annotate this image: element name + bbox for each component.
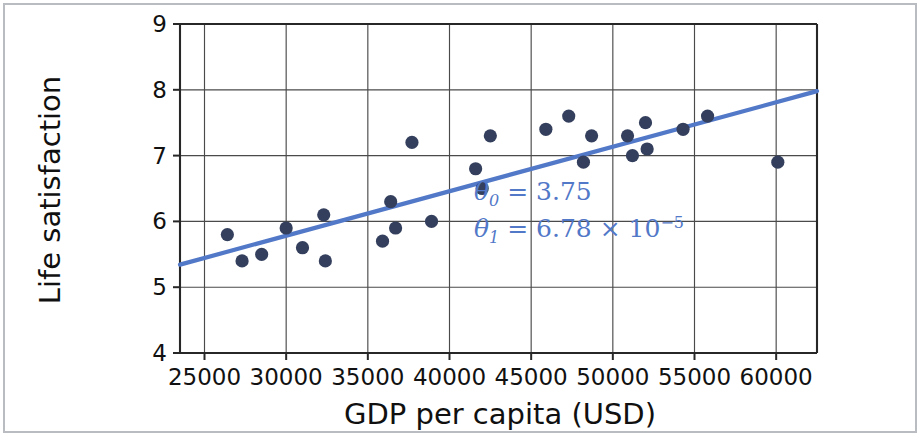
data-point	[771, 156, 784, 169]
data-point	[484, 129, 497, 142]
figure-root: 2500030000350004000045000500005500060000…	[0, 0, 922, 438]
x-axis-ticks: 2500030000350004000045000500005500060000	[168, 353, 813, 390]
x-tick-label: 50000	[576, 364, 649, 390]
x-axis-title: GDP per capita (USD)	[344, 397, 656, 431]
y-tick-label: 8	[152, 77, 167, 103]
data-point	[280, 221, 293, 234]
x-tick-label: 60000	[740, 364, 813, 390]
data-point	[641, 142, 654, 155]
data-point	[626, 149, 639, 162]
data-point	[701, 110, 714, 123]
data-point	[577, 156, 590, 169]
data-point	[469, 162, 482, 175]
data-point	[676, 123, 689, 136]
data-point	[296, 241, 309, 254]
y-axis-ticks: 456789	[152, 11, 180, 366]
data-point	[425, 215, 438, 228]
data-point	[319, 254, 332, 267]
data-point	[405, 136, 418, 149]
data-point	[585, 129, 598, 142]
data-point	[221, 228, 234, 241]
x-tick-label: 25000	[168, 364, 241, 390]
y-tick-label: 9	[152, 11, 167, 37]
x-tick-label: 40000	[413, 364, 486, 390]
y-axis-title: Life satisfaction	[33, 76, 67, 304]
data-point	[384, 195, 397, 208]
x-tick-label: 55000	[658, 364, 731, 390]
y-tick-label: 6	[152, 208, 167, 234]
x-tick-label: 45000	[495, 364, 568, 390]
y-tick-label: 4	[152, 340, 167, 366]
y-tick-label: 5	[152, 274, 167, 300]
data-point	[639, 116, 652, 129]
data-point	[562, 110, 575, 123]
data-point	[389, 221, 402, 234]
x-tick-label: 30000	[250, 364, 323, 390]
data-point	[255, 248, 268, 261]
y-tick-label: 7	[152, 143, 167, 169]
data-point	[376, 235, 389, 248]
theta1-annotation: θ1 = 6.78 × 10−5	[474, 213, 684, 247]
data-point	[317, 208, 330, 221]
x-tick-label: 35000	[331, 364, 404, 390]
data-point	[621, 129, 634, 142]
data-point	[235, 254, 248, 267]
data-point	[539, 123, 552, 136]
scatter-plot-chart: 2500030000350004000045000500005500060000…	[0, 0, 922, 438]
